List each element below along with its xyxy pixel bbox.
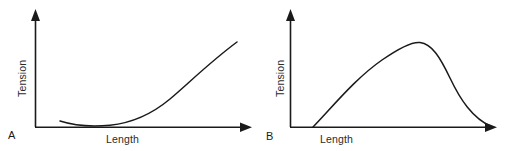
panel-b-curve	[313, 42, 492, 127]
panel-b-x-axis-label: Length	[320, 134, 353, 145]
panel-a-letter: A	[8, 130, 15, 141]
panel-b-y-axis-arrow-icon	[286, 9, 295, 21]
panel-a-plot	[0, 0, 261, 151]
panel-a: Tension Length A	[0, 0, 261, 151]
panel-a-x-axis-label: Length	[106, 134, 139, 145]
panel-b-letter: B	[266, 131, 273, 142]
length-tension-figure: Tension Length A Tension Length B	[0, 0, 521, 151]
panel-a-y-axis-label: Tension	[17, 60, 28, 97]
panel-a-x-axis-arrow-icon	[240, 123, 252, 132]
panel-b: Tension Length B	[260, 0, 521, 151]
panel-b-y-axis-label: Tension	[275, 60, 286, 97]
panel-a-y-axis-arrow-icon	[31, 9, 40, 21]
panel-b-plot	[260, 0, 521, 151]
panel-a-curve	[60, 42, 237, 126]
